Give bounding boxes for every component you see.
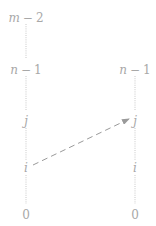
right-label-n-minus-1: n−1 <box>119 63 150 77</box>
left-label-i: i <box>24 161 28 175</box>
right-label-i: i <box>133 161 137 175</box>
dashed-arrow <box>33 119 129 165</box>
left-label-n-minus-1: n−1 <box>10 63 41 77</box>
left-label-j: j <box>21 114 28 128</box>
left-label-0: 0 <box>22 208 30 222</box>
diagram-canvas: m−2 n−1 j i 0 n−1 j i 0 <box>0 0 156 226</box>
right-label-0: 0 <box>131 208 139 222</box>
left-label-m-minus-2: m−2 <box>8 11 43 25</box>
right-label-j: j <box>130 114 137 128</box>
